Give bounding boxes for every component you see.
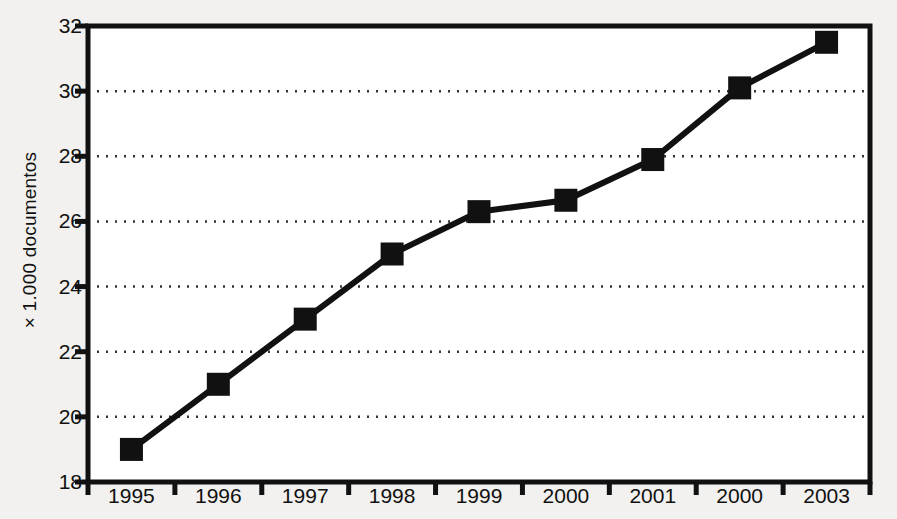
x-axis-tick-label: 2000	[696, 484, 783, 516]
x-axis-tick-label: 1998	[349, 484, 436, 516]
plot-background-group	[88, 26, 870, 482]
chart-figure: × 1.000 documentos 1820222426283032 1995…	[0, 0, 897, 519]
x-axis-tick-label: 2001	[609, 484, 696, 516]
plot-background	[88, 26, 870, 482]
x-axis-tick-label: 1997	[262, 484, 349, 516]
data-point-marker	[641, 148, 664, 171]
x-axis-tick-labels: 199519961997199819992000200120002003	[88, 484, 870, 516]
data-point-marker	[120, 438, 143, 461]
data-point-marker	[728, 76, 751, 99]
x-axis-tick-label: 1996	[175, 484, 262, 516]
data-point-marker	[815, 31, 838, 54]
data-point-marker	[554, 189, 577, 212]
x-axis-tick-label: 2000	[522, 484, 609, 516]
x-axis-tick-label: 2003	[783, 484, 870, 516]
x-axis-tick-label: 1995	[88, 484, 175, 516]
data-point-marker	[207, 373, 230, 396]
data-point-marker	[381, 243, 404, 266]
x-axis-tick-label: 1999	[436, 484, 523, 516]
data-point-marker	[294, 308, 317, 331]
plot-area	[0, 0, 897, 519]
data-point-marker	[468, 200, 491, 223]
